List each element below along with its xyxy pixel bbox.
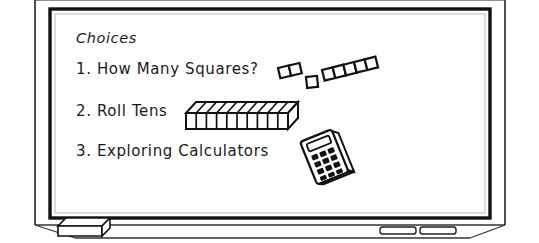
marker-icon-2 bbox=[420, 227, 456, 234]
whiteboard-drawing bbox=[0, 0, 539, 243]
marker-icon-1 bbox=[380, 227, 416, 234]
base-ten-rod-icon bbox=[186, 102, 298, 129]
eraser-icon bbox=[58, 218, 110, 236]
whiteboard-scene: Choices 1. How Many Squares? 2. Roll Ten… bbox=[0, 0, 539, 243]
base-ten-unit-square-icon bbox=[306, 76, 318, 88]
